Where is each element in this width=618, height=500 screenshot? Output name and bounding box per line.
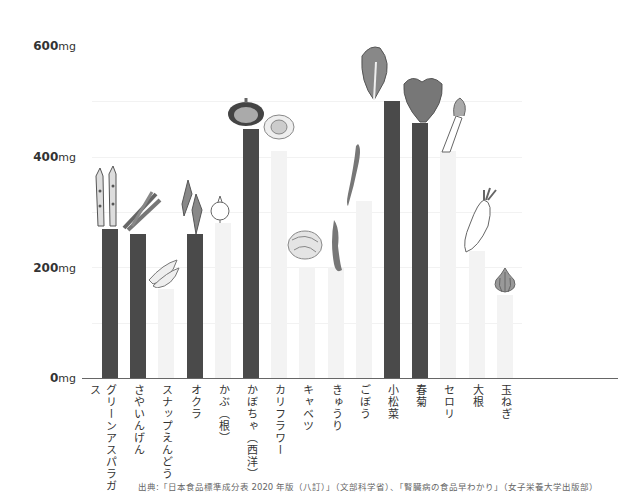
pumpkin-icon [226, 96, 266, 128]
x-tick-label: かぶ（根） [215, 384, 231, 444]
y-tick-600: 600mg [0, 39, 76, 54]
x-tick-label: 玉ねぎ [497, 384, 513, 420]
x-tick-label: グリーンアスパラガス [102, 384, 118, 500]
celery-icon [438, 96, 472, 154]
bar [215, 223, 231, 378]
turnip-icon [208, 194, 232, 224]
bar [271, 151, 287, 378]
x-tick-label: さやいんげん [130, 384, 146, 456]
x-tick-label: ごぼう [356, 384, 372, 420]
bar [299, 267, 315, 378]
komatsuna-icon [354, 42, 396, 102]
bar [187, 234, 203, 378]
y-tick-200: 200mg [0, 261, 76, 276]
bar [328, 267, 344, 378]
cucumber-icon [326, 218, 346, 274]
bar [469, 251, 485, 378]
bar [384, 101, 400, 378]
y-tick-0: 0mg [0, 371, 76, 386]
x-tick-label: かぼちゃ（西洋） [243, 384, 259, 480]
gridline [92, 157, 522, 158]
bar [243, 129, 259, 378]
cabbage-icon [286, 228, 324, 262]
onion-icon [492, 266, 518, 294]
bar [158, 289, 174, 378]
cauliflower-icon [262, 112, 296, 142]
bar [356, 201, 372, 378]
bar [497, 295, 513, 378]
x-tick-label: 春菊 [412, 384, 428, 408]
x-axis-line [82, 378, 618, 379]
daikon-icon [460, 186, 502, 254]
bar [440, 151, 456, 378]
burdock-icon [344, 142, 364, 208]
source-note: 出典:「日本食品標準成分表 2020 年版（八訂）」（文部科学省）、「腎臓病の食… [138, 480, 598, 492]
green-beans-icon [122, 190, 162, 232]
x-tick-label: セロリ [440, 384, 456, 420]
x-tick-label: スナップえんどう [158, 384, 174, 480]
x-tick-label: 大根 [469, 384, 485, 408]
okra-icon [180, 180, 206, 236]
bar [130, 234, 146, 378]
x-tick-label: カリフラワー [271, 384, 287, 456]
asparagus-icon [92, 166, 122, 228]
x-tick-label: キャベツ [299, 384, 315, 432]
x-tick-label: きゅうり [328, 384, 344, 432]
bar [412, 123, 428, 378]
x-tick-label: 小松菜 [384, 384, 400, 420]
bar [102, 229, 118, 378]
x-tick-label: オクラ [187, 384, 203, 420]
y-tick-400: 400mg [0, 150, 76, 165]
snap-pea-icon [147, 258, 181, 288]
